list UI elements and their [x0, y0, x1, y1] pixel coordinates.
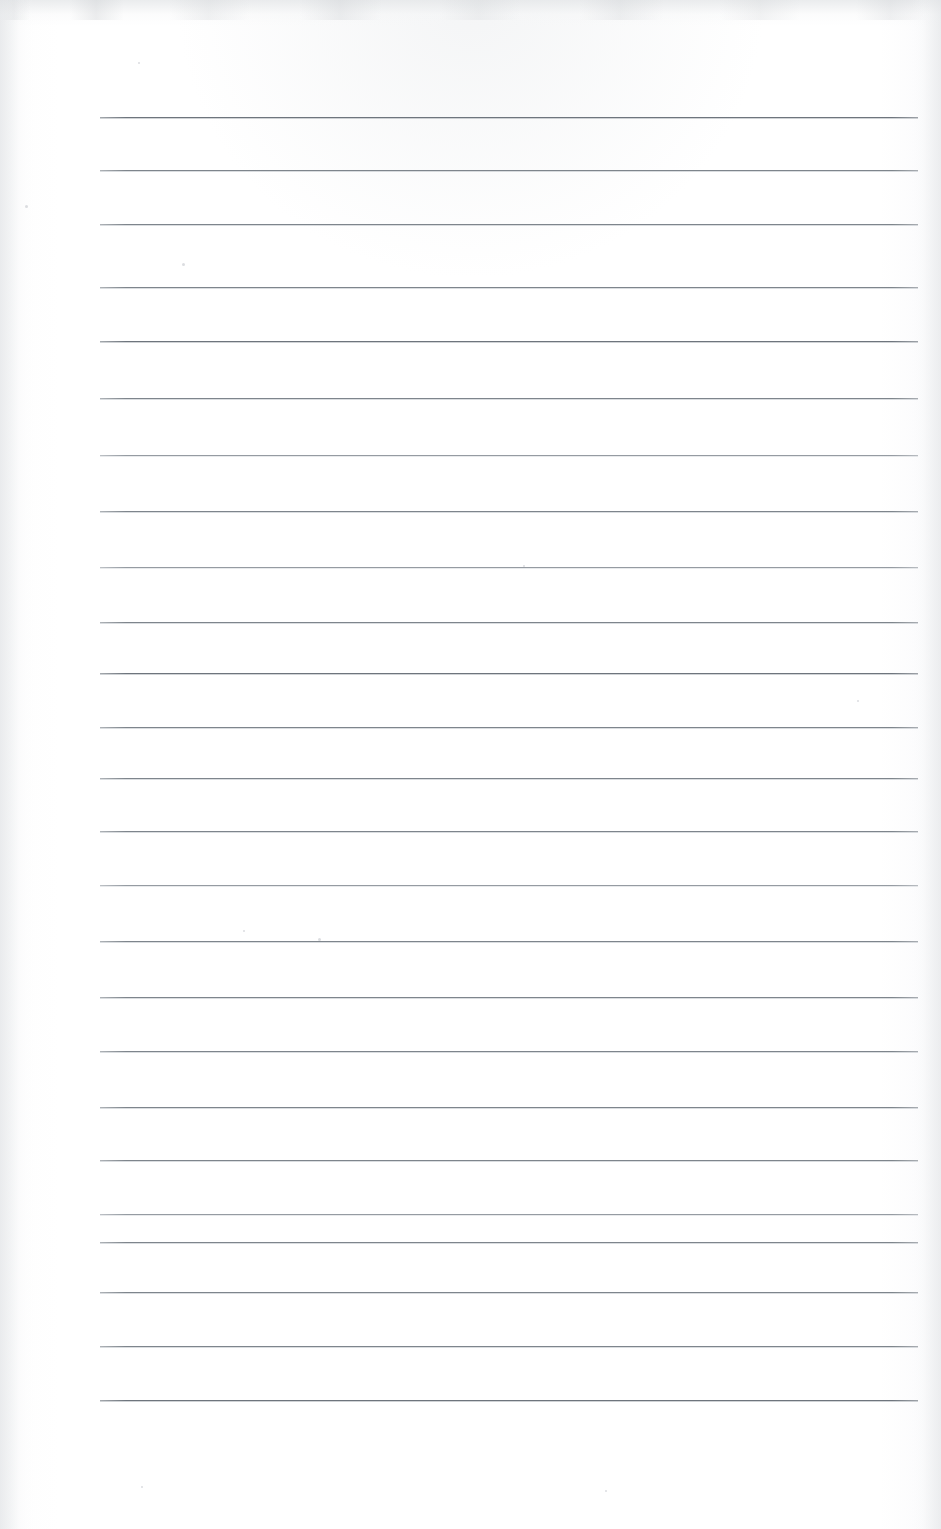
scan-speck	[138, 62, 140, 64]
scan-speck	[605, 1490, 607, 1492]
rule-line	[100, 398, 918, 399]
rule-line	[100, 778, 918, 779]
scan-speck	[318, 938, 321, 941]
rule-line	[100, 1214, 918, 1215]
scanned-page	[0, 0, 941, 1529]
rule-line	[100, 224, 918, 225]
rule-line	[100, 567, 918, 568]
rule-line	[100, 1160, 918, 1161]
rule-line	[100, 170, 918, 171]
rule-line	[100, 673, 918, 674]
rule-line	[100, 511, 918, 512]
rule-line	[100, 1107, 918, 1108]
rule-line	[100, 455, 918, 456]
rule-line	[100, 287, 918, 288]
rule-line	[100, 117, 918, 118]
rule-line	[100, 941, 918, 942]
rule-line	[100, 1400, 918, 1401]
rule-line	[100, 622, 918, 623]
rule-line	[100, 1292, 918, 1293]
rule-line	[100, 341, 918, 342]
scan-speck	[25, 205, 28, 208]
rule-line	[100, 1051, 918, 1052]
rule-line	[100, 727, 918, 728]
scan-speck	[523, 565, 525, 567]
scan-speck	[182, 263, 185, 266]
rule-line	[100, 997, 918, 998]
scan-speck	[857, 700, 859, 702]
rule-line	[100, 1346, 918, 1347]
scan-speck	[141, 1486, 143, 1488]
rule-line	[100, 831, 918, 832]
rule-line	[100, 885, 918, 886]
scan-speck	[243, 930, 245, 932]
ruled-line-layer	[0, 0, 941, 1529]
rule-line	[100, 1242, 918, 1243]
